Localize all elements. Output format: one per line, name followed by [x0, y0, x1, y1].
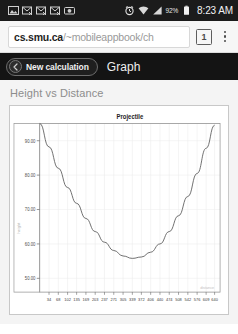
battery-icon [181, 5, 192, 16]
chart-x-tick-label: 237 [101, 297, 108, 302]
mail-sync-icon-2 [36, 5, 47, 16]
status-bar-notification-icons [8, 5, 124, 16]
new-calculation-button[interactable]: New calculation [6, 58, 98, 76]
browser-toolbar: cs.smu.ca/~mobileappbook/ch 1 [0, 21, 238, 53]
phone-screen: 92% 8:23 AM cs.smu.ca/~mobileappbook/ch … [0, 0, 238, 334]
chart-x-tick-label: 508 [175, 297, 182, 302]
bottom-spacer [0, 324, 238, 334]
chart-y-tick-label: 60.00 [25, 242, 36, 247]
chart-x-tick-label: 135 [73, 297, 80, 302]
chart-x-tick-label: 542 [185, 297, 192, 302]
tab-count-label: 1 [201, 32, 206, 42]
kebab-dot-3 [224, 40, 227, 43]
chart-x-tick-label: 102 [64, 297, 71, 302]
address-bar[interactable]: cs.smu.ca/~mobileappbook/ch [8, 26, 190, 48]
chart-x-tick-label: 68 [56, 297, 61, 302]
status-bar-system-icons: 92% 8:23 AM [124, 5, 233, 16]
chart-series-line [40, 124, 215, 259]
chart-y-tick-label: 70.00 [25, 207, 36, 212]
chart-x-tick-label: 576 [194, 297, 201, 302]
chart-x-tick-label: 169 [83, 297, 90, 302]
chart-plot-frame [40, 124, 220, 293]
app-toolbar: New calculation Graph [0, 53, 238, 80]
chart-x-tick-label: 609 [203, 297, 210, 302]
chart-y-tick-label: 50.00 [25, 276, 36, 281]
chart-x-tick-label: 640 [211, 297, 218, 302]
status-bar-clock: 8:23 AM [195, 5, 233, 16]
chart-x-tick-label: 339 [129, 297, 136, 302]
back-arrow-icon [9, 60, 22, 73]
chart-y-tick-label: 90.00 [25, 138, 36, 143]
chart-x-axis-label: distance [200, 285, 215, 290]
overflow-menu-icon[interactable] [218, 28, 232, 46]
tab-graph[interactable]: Graph [107, 60, 141, 74]
chart-y-tick-label: 80.00 [25, 173, 36, 178]
chart-container: 50.0060.0070.0080.0090.00height346810213… [9, 105, 229, 315]
chart-x-tick-label: 305 [120, 297, 127, 302]
chart-y-axis-label: height [17, 222, 21, 234]
status-bar: 92% 8:23 AM [0, 0, 238, 21]
page-content: Height vs Distance 50.0060.0070.0080.009… [0, 80, 238, 334]
chart-x-tick-label: 271 [110, 297, 117, 302]
signal-icon [152, 5, 163, 16]
chart-title: Projectile [117, 112, 144, 119]
chart-x-tick-label: 406 [147, 297, 154, 302]
kebab-dot-1 [224, 31, 227, 34]
page-title: Height vs Distance [0, 80, 238, 105]
url-path-text: /~mobileappbook/ch [63, 31, 154, 43]
projectile-chart: 50.0060.0070.0080.0090.00height346810213… [10, 106, 228, 314]
battery-percent-label: 92% [166, 7, 178, 14]
mail-sync-icon-1 [22, 5, 33, 16]
camera-icon [64, 5, 75, 16]
new-calculation-label: New calculation [26, 62, 89, 72]
chart-x-tick-label: 474 [166, 297, 173, 302]
kebab-dot-2 [224, 35, 227, 38]
wifi-icon [138, 5, 149, 16]
chart-x-tick-label: 372 [138, 297, 145, 302]
picture-icon [8, 5, 19, 16]
chart-x-tick-label: 440 [157, 297, 164, 302]
chart-x-tick-label: 34 [47, 297, 52, 302]
tab-counter-button[interactable]: 1 [196, 29, 212, 45]
mail-sync-icon-3 [50, 5, 61, 16]
alarm-icon [124, 5, 135, 16]
url-host-text: cs.smu.ca [14, 31, 63, 43]
chart-x-tick-label: 203 [92, 297, 99, 302]
